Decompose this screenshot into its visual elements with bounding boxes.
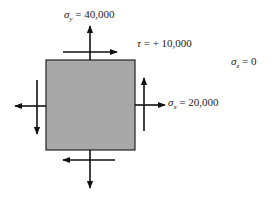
stress-element-square: [46, 60, 135, 150]
tau-label: τ = + 10,000: [137, 37, 192, 49]
sigma-y-label: σy = 40,000: [64, 8, 115, 20]
stress-element-diagram: [0, 0, 274, 198]
sigma-x-label: σx = 20,000: [168, 96, 219, 108]
sigma-z-label: σz = 0: [231, 55, 256, 67]
